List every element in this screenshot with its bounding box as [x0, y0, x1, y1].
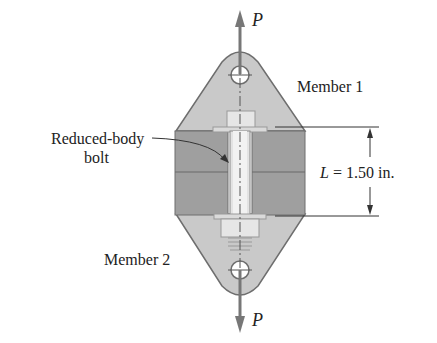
bolt-label-line2: bolt	[84, 150, 109, 166]
dimension-value: = 1.50 in.	[329, 164, 394, 181]
dimension-label: L = 1.50 in.	[320, 165, 394, 181]
load-label-top: P	[252, 11, 263, 29]
load-label-bottom: P	[252, 311, 263, 329]
dimension-symbol: L	[320, 164, 329, 181]
member2-label: Member 2	[104, 252, 170, 268]
bolt-label-line1: Reduced-body	[51, 131, 144, 147]
member1-label: Member 1	[297, 79, 363, 95]
